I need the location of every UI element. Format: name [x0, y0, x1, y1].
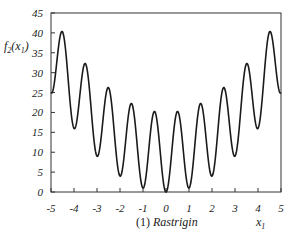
x-tick-label: -4 [69, 202, 79, 214]
x-tick-label: -2 [115, 202, 125, 214]
y-tick-label: 5 [38, 166, 44, 178]
x-tick-label: 2 [209, 202, 215, 214]
rastrigin-chart: 051015202530354045 -5-4-3-2-1012345 f2(x… [0, 0, 285, 238]
x-tick-label: -1 [138, 202, 147, 214]
y-tick-label: 30 [31, 67, 44, 79]
x-tick-label: -3 [92, 202, 102, 214]
y-tick-label: 40 [32, 27, 44, 39]
y-tick-label: 45 [32, 7, 44, 19]
x-tick-label: 3 [231, 202, 238, 214]
x-tick-label: 0 [163, 202, 169, 214]
y-tick-label: 35 [31, 47, 44, 59]
y-tick-label: 25 [32, 87, 44, 99]
x-tick-label: 1 [186, 202, 192, 214]
chart-caption: (1) Rastrigin [136, 215, 198, 229]
plot-frame [51, 13, 281, 192]
x-tick-label: -5 [46, 202, 56, 214]
y-tick-label: 0 [38, 186, 44, 198]
x-tick-label: 5 [278, 202, 284, 214]
y-tick-label: 20 [32, 106, 44, 118]
rastrigin-curve [51, 32, 281, 192]
y-axis-title: f2(x1) [4, 39, 29, 55]
x-axis-title: x1 [255, 215, 265, 231]
y-tick-label: 15 [32, 126, 44, 138]
x-tick-label: 4 [255, 202, 261, 214]
y-tick-label: 10 [32, 146, 44, 158]
